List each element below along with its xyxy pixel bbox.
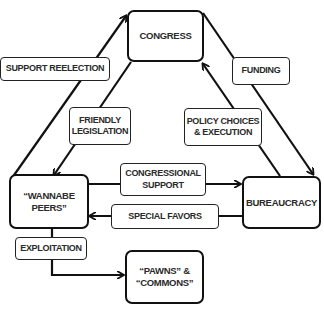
exploitation-label: EXPLOITATION [15, 237, 87, 260]
special-favors-label: SPECIAL FAVORS [111, 204, 219, 229]
policy-choices-label: POLICY CHOICES & EXECUTION [184, 108, 262, 146]
funding-label: FUNDING [232, 57, 290, 85]
bureaucracy-label: BUREAUCRACY [246, 197, 317, 209]
pawns-commons-node: “PAWNS” & “COMMONS” [125, 250, 204, 304]
friendly-legislation-label: FRIENDLY LEGISLATION [69, 107, 131, 145]
pawns-label: “PAWNS” & “COMMONS” [136, 265, 193, 289]
support-reelection-label: SUPPORT REELECTION [0, 57, 110, 81]
bureaucracy-node: BUREAUCRACY [242, 176, 321, 229]
congressional-support-label: CONGRESSIONAL SUPPORT [120, 163, 206, 196]
wannabe-peers-node: “WANNABE PEERS” [9, 174, 89, 229]
peers-label: “WANNABE PEERS” [23, 190, 74, 214]
edge-funding [203, 13, 313, 174]
congress-label: CONGRESS [140, 30, 192, 42]
congress-node: CONGRESS [127, 10, 204, 62]
